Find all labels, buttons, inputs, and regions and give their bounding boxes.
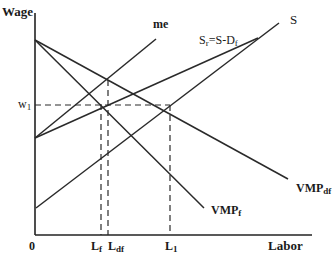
me-label: me [153,17,169,31]
supply-label: S [290,12,297,27]
l1-label: L1 [165,239,178,254]
vmp-df-curve [35,40,288,179]
vmp-f-curve [35,40,204,208]
y-axis-label: Wage [2,4,33,19]
residual-supply-label: Sr=S-Df [199,33,238,48]
diagram-canvas: Wage Labor 0 w1 Lf Ldf L1 VMPdf VMPf me … [0,0,335,260]
ldf-label: Ldf [108,239,125,254]
w1-label: w1 [18,97,31,112]
labor-market-diagram: Wage Labor 0 w1 Lf Ldf L1 VMPdf VMPf me … [0,0,335,260]
vmp-f-label: VMPf [211,203,242,218]
me-curve [35,39,156,138]
x-axis-label: Labor [268,238,303,253]
supply-curve [36,23,279,208]
origin-label: 0 [29,239,35,253]
lf-label: Lf [91,239,103,254]
vmp-df-label: VMPdf [296,181,332,196]
